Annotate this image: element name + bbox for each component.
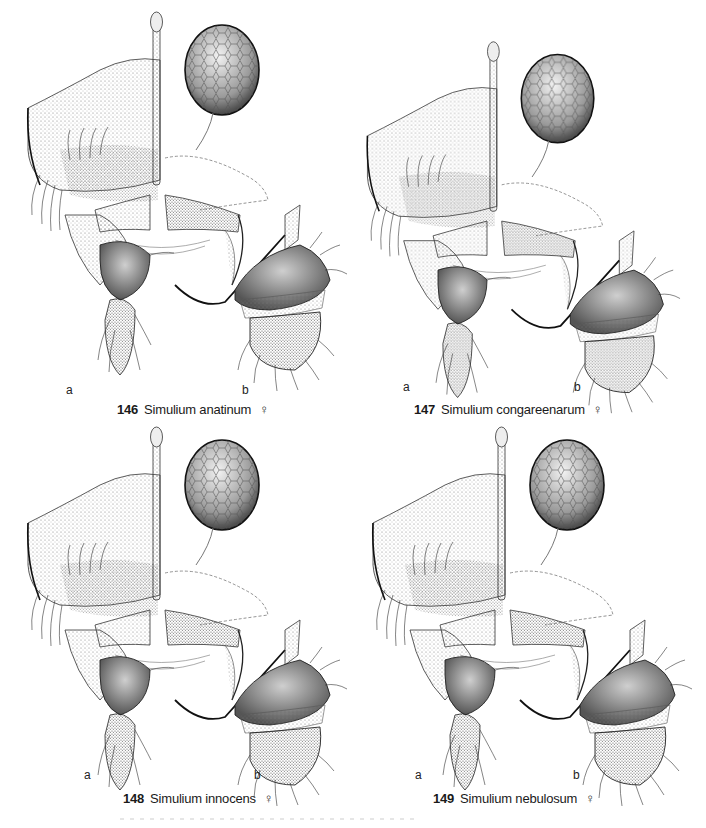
- female-symbol-icon: ♀: [264, 791, 274, 806]
- panel-label-b: b: [242, 383, 249, 397]
- figure-number: 149: [433, 791, 454, 806]
- panel-label-b: b: [254, 768, 261, 782]
- species-name: Simulium innocens: [150, 791, 256, 806]
- panel-label-b: b: [573, 768, 580, 782]
- figure-caption-149: 149Simulium nebulosum♀: [433, 791, 595, 806]
- panel-label-a: a: [403, 380, 410, 394]
- figure-number: 148: [123, 791, 144, 806]
- specimen-illustration: [345, 415, 698, 828]
- panel-label-a: a: [84, 768, 91, 782]
- specimen-illustration: [340, 30, 693, 444]
- panel-label-b: b: [574, 380, 581, 394]
- plate-149: a b: [345, 415, 698, 828]
- figure-caption-148: 148Simulium innocens♀: [123, 791, 273, 806]
- panel-label-a: a: [66, 383, 73, 397]
- specimen-illustration: [0, 415, 353, 828]
- female-symbol-icon: ♀: [585, 791, 595, 806]
- plate-146: a b: [0, 0, 353, 414]
- plate-147: a b: [340, 30, 693, 444]
- panel-label-a: a: [415, 768, 422, 782]
- plate-148: a b: [0, 415, 353, 828]
- specimen-illustration: [0, 0, 353, 414]
- faint-footer-text: [120, 818, 420, 820]
- species-name: Simulium nebulosum: [460, 791, 577, 806]
